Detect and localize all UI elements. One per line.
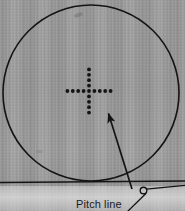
figure-canvas: Pitch line [0,0,185,211]
pitch-line-label: Pitch line [76,199,122,210]
annotation-layer: Pitch line [0,0,185,211]
